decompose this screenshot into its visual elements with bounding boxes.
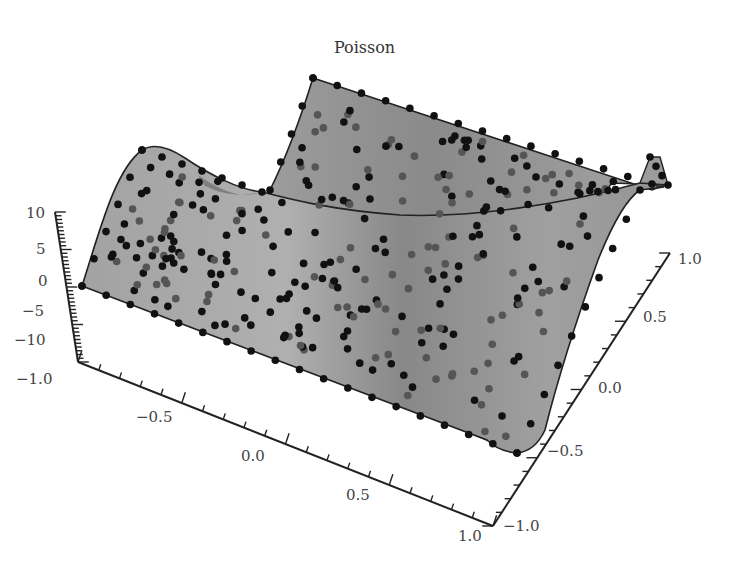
z-tick-label: −5	[22, 302, 44, 320]
z-tick-label: 5	[36, 240, 46, 258]
y-tick-label: −1.0	[503, 517, 539, 535]
y-tick-label: 0.0	[598, 379, 622, 397]
x-tick-label: −1.0	[16, 370, 52, 388]
z-tick-label: 0	[38, 272, 48, 290]
x-tick-label: 0.0	[241, 447, 265, 465]
x-tick-label: 1.0	[458, 527, 482, 545]
y-tick-label: −0.5	[547, 442, 583, 460]
z-tick-label: 10	[26, 204, 45, 222]
z-tick-label: −10	[14, 331, 46, 349]
y-tick-label: 0.5	[643, 308, 667, 326]
y-tick-label: 1.0	[678, 250, 702, 268]
x-tick-label: −0.5	[136, 408, 172, 426]
x-tick-label: 0.5	[346, 486, 370, 504]
